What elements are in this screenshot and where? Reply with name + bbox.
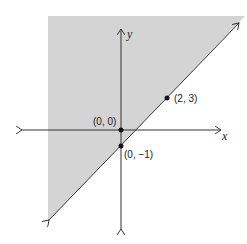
- point-2-3: [165, 96, 170, 101]
- point-y-intercept-label: (0, −1): [124, 149, 153, 160]
- inequality-graph: x y (0, 0) (0, −1) (2, 3): [0, 0, 247, 244]
- point-origin: [119, 128, 124, 133]
- point-y-intercept: [119, 144, 124, 149]
- point-origin-label: (0, 0): [93, 116, 116, 127]
- y-axis-label: y: [126, 27, 133, 41]
- point-2-3-label: (2, 3): [174, 93, 197, 104]
- x-axis-label: x: [221, 129, 228, 143]
